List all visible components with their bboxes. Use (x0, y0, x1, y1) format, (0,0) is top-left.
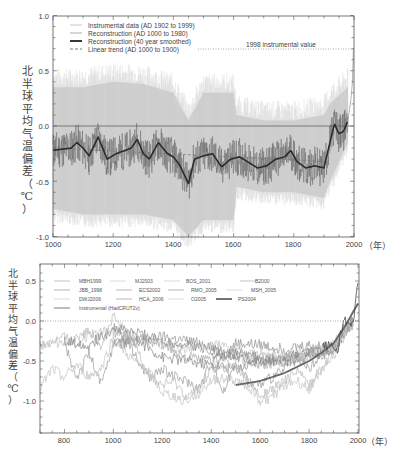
ylabel-char: 北 (20, 66, 34, 79)
ylabel-char: ） (6, 395, 20, 407)
series-B2000 (113, 321, 353, 369)
top-xtick-label: 1000 (45, 240, 62, 249)
bottom-ytick-label: 0.0 (26, 317, 36, 326)
ylabel-char: 偏 (6, 349, 20, 361)
top-ytick-label: 0.0 (39, 122, 49, 131)
legend-label: O2005 (191, 296, 206, 302)
bottom-xtick-label: 2000 (350, 436, 367, 445)
top-chart: 1.0 0.5 0.0 -0.5 -1.0 1000 1200 1400 160… (0, 0, 405, 250)
legend-label: ECS2002 (139, 287, 161, 293)
series-RMO_2005 (211, 322, 353, 366)
bottom-xtick-label: 1000 (105, 436, 122, 445)
series-MJ2003 (40, 317, 353, 362)
bottom-y-axis-label: 北 半 球 平 均 气 温 偏 差 （ ℃ ） (6, 268, 20, 406)
ylabel-char: 均 (6, 314, 20, 326)
ylabel-char: 球 (20, 91, 34, 104)
bottom-xtick-label: 1800 (301, 436, 318, 445)
bottom-ytick-label: -0.5 (23, 357, 36, 366)
ylabel-char: ℃ (20, 191, 34, 204)
ylabel-char: 球 (6, 291, 20, 303)
ylabel-char: 温 (20, 141, 34, 154)
bottom-xtick-label: 1400 (203, 436, 220, 445)
legend-label: DWJ2006 (79, 296, 101, 302)
legend-label: Instrumental data (AD 1902 to 1999) (88, 22, 195, 30)
series-HCA_2006 (64, 317, 353, 365)
series-MSH_2005 (40, 310, 353, 400)
top-xtick-label: 1200 (105, 240, 122, 249)
legend-label: MSH_2005 (251, 287, 276, 293)
legend-label: Reconstruction (40 year smoothed) (88, 38, 191, 46)
series-Instrumental (HadCRUT2v) (323, 283, 358, 353)
top-ytick-label: 1.0 (39, 12, 49, 21)
ylabel-char: （ (6, 372, 20, 384)
bottom-reconstruction-series (40, 283, 358, 406)
legend-label: JBB_1998 (79, 287, 102, 293)
ylabel-char: 均 (20, 116, 34, 129)
bottom-ytick-label: 0.5 (26, 277, 36, 286)
ylabel-char: 半 (6, 280, 20, 292)
legend-label: BOS_2001 (186, 278, 211, 284)
top-legend: Instrumental data (AD 1902 to 1999) Reco… (70, 22, 195, 54)
ylabel-char: 平 (6, 303, 20, 315)
bottom-xtick-label: 800 (58, 436, 71, 445)
legend-label: MBH1999 (79, 278, 101, 284)
series-O2005 (260, 322, 353, 363)
ylabel-char: 差 (6, 360, 20, 372)
bottom-plot-frame (40, 264, 359, 433)
legend-label: HCA_2006 (139, 296, 164, 302)
ylabel-char: 北 (6, 268, 20, 280)
ylabel-char: ） (20, 204, 34, 217)
ylabel-char: 差 (20, 166, 34, 179)
legend-label: B2000 (255, 278, 270, 284)
top-ytick-label: 0.5 (39, 67, 49, 76)
bottom-xtick-label: 1200 (154, 436, 171, 445)
ylabel-char: ℃ (6, 383, 20, 395)
bottom-ytick-label: -1.0 (23, 397, 36, 406)
bottom-legend: MBH1999 MJ2003 BOS_2001 B2000 JBB_1998 E… (54, 278, 276, 311)
bottom-xtick-label: 1600 (252, 436, 269, 445)
legend-label: PS2004 (238, 296, 256, 302)
series-DWJ2006 (40, 320, 353, 406)
top-xtick-label: 1600 (225, 240, 242, 249)
legend-label: RMO_2005 (191, 287, 217, 293)
annotation-1998: 1998 instrumental value (246, 41, 316, 48)
top-xtick-label: 1400 (165, 240, 182, 249)
series-PS2004 (236, 303, 358, 385)
top-ytick-label: -0.5 (36, 178, 49, 187)
series-MBH1999 (113, 318, 353, 361)
series-BOS_2001 (211, 324, 348, 368)
legend-label: Reconstruction (AD 1000 to 1980) (88, 30, 188, 38)
top-xtick-label: 2000 (346, 240, 363, 249)
legend-label: MJ2003 (135, 278, 153, 284)
legend-label: Linear trend (AD 1000 to 1900) (88, 46, 179, 54)
bottom-axis-ticks (40, 264, 359, 433)
bottom-x-axis-unit: （年） (366, 435, 393, 448)
ylabel-char: 气 (6, 326, 20, 338)
series-JBB_1998 (113, 318, 353, 373)
top-y-axis-label: 北 半 球 平 均 气 温 偏 差 （ ℃ ） (20, 66, 34, 216)
series-ECS2002 (64, 322, 353, 394)
ylabel-char: 温 (6, 337, 20, 349)
legend-label: Instrumental (HadCRUT2v) (79, 305, 140, 311)
top-xtick-label: 1800 (285, 240, 302, 249)
top-x-axis-unit: （年） (364, 239, 391, 252)
